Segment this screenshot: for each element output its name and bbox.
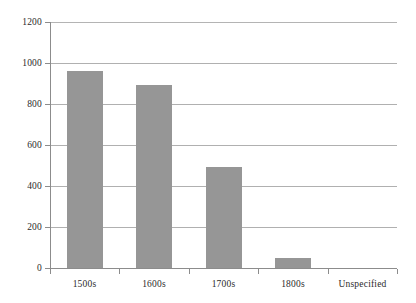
y-tick-800 <box>45 104 50 105</box>
y-tick-label-0: 0 <box>6 264 42 274</box>
x-axis-line <box>50 268 397 269</box>
x-tick-0 <box>50 269 51 274</box>
y-tick-200 <box>45 227 50 228</box>
x-tick-label-1600s: 1600s <box>119 280 189 290</box>
bar-1800s <box>275 258 311 268</box>
bar-chart: 1200 1000 800 600 400 200 0 1500s 1600s … <box>0 0 416 303</box>
y-tick-label-1000: 1000 <box>6 59 42 69</box>
gridline-1000 <box>50 63 397 64</box>
plot-area <box>50 22 397 268</box>
y-tick-400 <box>45 186 50 187</box>
x-tick-5 <box>397 269 398 274</box>
x-tick-4 <box>328 269 329 274</box>
y-tick-label-200: 200 <box>6 223 42 233</box>
y-tick-1200 <box>45 22 50 23</box>
y-tick-label-400: 400 <box>6 182 42 192</box>
y-tick-1000 <box>45 63 50 64</box>
x-tick-label-unspecified: Unspecified <box>328 280 397 290</box>
x-tick-2 <box>189 269 190 274</box>
gridline-1200 <box>50 22 397 23</box>
x-tick-1 <box>119 269 120 274</box>
x-tick-label-1700s: 1700s <box>189 280 258 290</box>
bar-1700s <box>206 167 242 268</box>
bar-1500s <box>67 71 103 268</box>
y-tick-label-800: 800 <box>6 100 42 110</box>
bar-1600s <box>136 85 172 268</box>
y-tick-label-600: 600 <box>6 141 42 151</box>
y-tick-600 <box>45 145 50 146</box>
x-tick-3 <box>258 269 259 274</box>
y-axis-line <box>50 22 51 269</box>
x-tick-label-1500s: 1500s <box>50 280 119 290</box>
y-tick-label-1200: 1200 <box>6 18 42 28</box>
x-tick-label-1800s: 1800s <box>258 280 328 290</box>
